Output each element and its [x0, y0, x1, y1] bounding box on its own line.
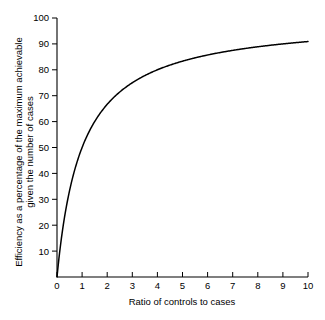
- x-tick-label-10: 10: [303, 280, 314, 291]
- x-tick-label-4: 4: [155, 280, 160, 291]
- x-tick-label-7: 7: [230, 280, 235, 291]
- x-axis-title: Ratio of controls to cases: [129, 296, 236, 307]
- y-tick-label-90: 90: [38, 38, 49, 49]
- chart-plot-area: 102030405060708090100 012345678910 Ratio…: [0, 0, 325, 320]
- x-axis-tick-labels: 012345678910: [54, 280, 313, 291]
- y-tick-label-60: 60: [38, 116, 49, 127]
- y-tick-label-50: 50: [38, 142, 49, 153]
- y-tick-label-40: 40: [38, 168, 49, 179]
- x-tick-label-9: 9: [280, 280, 285, 291]
- chart-figure: 102030405060708090100 012345678910 Ratio…: [0, 0, 325, 320]
- y-axis-ticks: [52, 18, 57, 251]
- efficiency-curve: [57, 42, 308, 277]
- x-tick-label-0: 0: [54, 280, 59, 291]
- y-tick-label-20: 20: [38, 220, 49, 231]
- y-tick-label-100: 100: [33, 12, 49, 23]
- x-tick-label-8: 8: [255, 280, 260, 291]
- y-axis-title-line-1: Efficiency as a percentage of the maximu…: [13, 37, 24, 267]
- y-tick-label-10: 10: [38, 246, 49, 257]
- x-tick-label-5: 5: [180, 280, 185, 291]
- x-axis-ticks: [57, 272, 308, 277]
- y-axis-tick-labels: 102030405060708090100: [33, 12, 49, 256]
- x-tick-label-3: 3: [130, 280, 135, 291]
- x-tick-label-1: 1: [79, 280, 84, 291]
- y-axis-title-line-2: given the number of cases: [24, 96, 35, 208]
- y-tick-label-30: 30: [38, 194, 49, 205]
- x-tick-label-6: 6: [205, 280, 210, 291]
- y-tick-label-70: 70: [38, 90, 49, 101]
- x-tick-label-2: 2: [105, 280, 110, 291]
- y-tick-label-80: 80: [38, 64, 49, 75]
